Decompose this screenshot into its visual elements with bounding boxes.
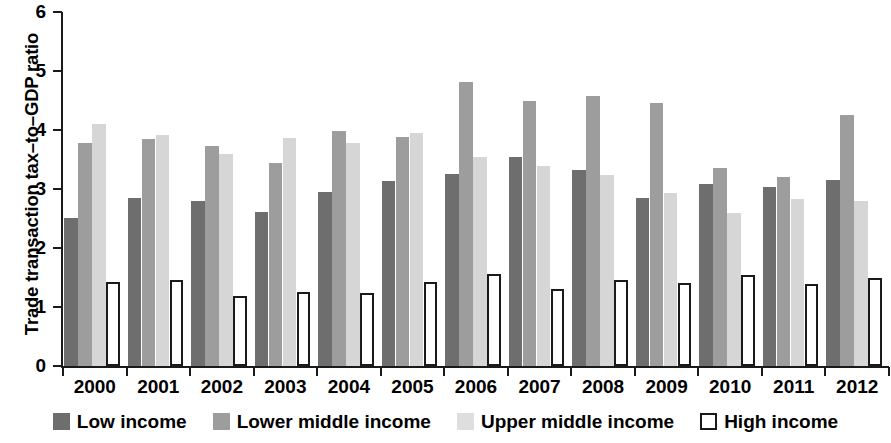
- legend-label-lower-middle-income: Lower middle income: [237, 412, 431, 431]
- swatch-high-income: [700, 413, 717, 430]
- bar-high-income-2008: [614, 280, 628, 366]
- bar-upper-middle-income-2008: [600, 175, 614, 366]
- bar-high-income-2011: [805, 284, 819, 366]
- bar-lower-middle-income-2003: [269, 163, 283, 366]
- x-axis-tick: [634, 367, 636, 376]
- legend-label-high-income: High income: [724, 412, 838, 431]
- x-axis-label-2009: 2009: [635, 377, 699, 396]
- x-axis-label-2011: 2011: [762, 377, 826, 396]
- legend-item-upper-middle-income[interactable]: Upper middle income: [457, 412, 674, 431]
- x-axis-tick: [443, 367, 445, 376]
- legend-item-lower-middle-income[interactable]: Lower middle income: [213, 412, 431, 431]
- x-axis-tick: [126, 367, 128, 376]
- bar-low-income-2003: [255, 212, 269, 366]
- bar-upper-middle-income-2010: [727, 213, 741, 366]
- y-axis-tick-label: 5: [16, 61, 46, 80]
- bar-group: [699, 12, 755, 366]
- bar-lower-middle-income-2002: [205, 146, 219, 366]
- bar-low-income-2010: [699, 184, 713, 366]
- bar-upper-middle-income-2003: [283, 138, 297, 366]
- y-axis-tick-label: 1: [16, 297, 46, 316]
- y-axis-tick-labels: 6543210: [10, 0, 46, 380]
- bar-low-income-2012: [826, 180, 840, 366]
- bar-chart-figure: Trade transaction tax–to–GDP ratio 65432…: [0, 0, 891, 443]
- bar-upper-middle-income-2012: [854, 201, 868, 366]
- x-axis-tick: [824, 367, 826, 376]
- x-axis-label-2005: 2005: [381, 377, 445, 396]
- x-axis-tick: [380, 367, 382, 376]
- bar-upper-middle-income-2004: [346, 143, 360, 366]
- x-axis-label-2006: 2006: [444, 377, 508, 396]
- bar-high-income-2004: [360, 293, 374, 366]
- bar-upper-middle-income-2011: [791, 199, 805, 366]
- bar-lower-middle-income-2000: [78, 143, 92, 366]
- bar-low-income-2001: [128, 198, 142, 366]
- x-axis-tick: [507, 367, 509, 376]
- swatch-lower-middle-income: [213, 413, 230, 430]
- bar-low-income-2005: [382, 181, 396, 366]
- bar-low-income-2000: [64, 218, 78, 366]
- bar-low-income-2004: [318, 192, 332, 366]
- x-axis-tick: [697, 367, 699, 376]
- bar-upper-middle-income-2006: [473, 157, 487, 366]
- y-axis-tick-label: 3: [16, 179, 46, 198]
- x-axis-tick: [888, 367, 890, 376]
- x-axis-tick: [253, 367, 255, 376]
- x-axis-label-2002: 2002: [190, 377, 254, 396]
- bar-high-income-2001: [170, 280, 184, 366]
- bar-high-income-2009: [678, 283, 692, 366]
- bar-lower-middle-income-2011: [777, 177, 791, 366]
- x-axis-tick: [316, 367, 318, 376]
- bar-group: [318, 12, 374, 366]
- x-axis-tick: [570, 367, 572, 376]
- swatch-upper-middle-income: [457, 413, 474, 430]
- bar-upper-middle-income-2000: [92, 124, 106, 366]
- bar-low-income-2011: [763, 187, 777, 366]
- bar-group: [64, 12, 120, 366]
- legend-label-low-income: Low income: [77, 412, 187, 431]
- bar-lower-middle-income-2009: [650, 103, 664, 366]
- chart-legend: Low incomeLower middle incomeUpper middl…: [0, 412, 891, 431]
- bar-group: [191, 12, 247, 366]
- bar-lower-middle-income-2008: [586, 96, 600, 366]
- x-axis-label-2008: 2008: [571, 377, 635, 396]
- bar-low-income-2007: [509, 157, 523, 366]
- bar-group: [255, 12, 311, 366]
- bar-low-income-2006: [445, 174, 459, 366]
- y-axis-tick-label: 4: [16, 120, 46, 139]
- bar-lower-middle-income-2001: [142, 139, 156, 366]
- x-axis-tick: [62, 367, 64, 376]
- bar-lower-middle-income-2010: [713, 168, 727, 366]
- bar-group: [382, 12, 438, 366]
- bar-low-income-2008: [572, 170, 586, 366]
- x-axis-label-2003: 2003: [254, 377, 318, 396]
- legend-label-upper-middle-income: Upper middle income: [481, 412, 674, 431]
- bar-lower-middle-income-2007: [523, 101, 537, 366]
- bar-group: [509, 12, 565, 366]
- bar-high-income-2012: [868, 278, 882, 367]
- bar-low-income-2002: [191, 201, 205, 366]
- x-axis-line: [61, 366, 889, 368]
- bar-group: [572, 12, 628, 366]
- plot-area: [61, 12, 889, 366]
- legend-item-low-income[interactable]: Low income: [53, 412, 187, 431]
- bar-high-income-2000: [106, 282, 120, 366]
- x-axis-label-2004: 2004: [317, 377, 381, 396]
- x-axis-tick: [189, 367, 191, 376]
- bar-high-income-2002: [233, 296, 247, 366]
- bar-low-income-2009: [636, 198, 650, 366]
- bar-group: [445, 12, 501, 366]
- x-axis-tick: [761, 367, 763, 376]
- x-axis-label-2000: 2000: [63, 377, 127, 396]
- legend-item-high-income[interactable]: High income: [700, 412, 838, 431]
- bar-high-income-2003: [297, 292, 311, 366]
- bar-lower-middle-income-2006: [459, 82, 473, 366]
- bar-lower-middle-income-2005: [396, 137, 410, 367]
- y-axis-tick-label: 2: [16, 238, 46, 257]
- y-axis-tick-label: 0: [16, 356, 46, 375]
- bar-upper-middle-income-2001: [156, 135, 170, 366]
- x-axis-label-2001: 2001: [127, 377, 191, 396]
- swatch-low-income: [53, 413, 70, 430]
- x-axis-label-2012: 2012: [825, 377, 889, 396]
- bar-group: [636, 12, 692, 366]
